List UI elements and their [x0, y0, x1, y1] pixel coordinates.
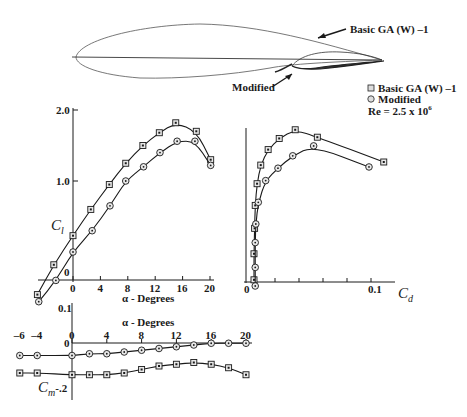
cm-xtick: 4 — [104, 329, 110, 341]
cm-ytick-0: 0 — [64, 337, 70, 349]
cm-xtick: 8 — [139, 329, 145, 341]
cm-ytick-01: 0.1 — [58, 302, 72, 314]
series-line — [254, 132, 384, 280]
legend: Basic GA (W) –1 Modified Re = 2.5 x 106 — [368, 82, 457, 117]
cl-ytick-2: 2.0 — [56, 104, 70, 116]
cm-xlabel: α - Degrees — [122, 316, 175, 328]
airfoil-modified-label: Modified — [232, 81, 275, 93]
cl-xlabel: α - Degrees — [122, 292, 175, 304]
cm-xtick: –4 — [30, 329, 43, 341]
cl-xtick: 4 — [97, 282, 103, 294]
circle-marker-icon — [368, 96, 374, 102]
cm-xtick: 16 — [205, 329, 217, 341]
airfoil-basic-label: Basic GA (W) –1 — [350, 23, 429, 36]
cm-xtick: –6 — [13, 329, 25, 341]
cd-xlabel: Cd — [398, 285, 414, 304]
figure-canvas: Basic GA (W) –1 Modified Basic GA (W) –1… — [0, 0, 467, 417]
cl-ytick-1: 1.0 — [56, 175, 70, 187]
legend-reynolds: Re = 2.5 x 106 — [368, 104, 432, 117]
legend-modified: Modified — [378, 93, 421, 105]
cm-xtick: 20 — [240, 329, 252, 341]
airfoil-diagram: Basic GA (W) –1 Modified — [72, 23, 429, 93]
figure: Basic GA (W) –1 Modified Basic GA (W) –1… — [0, 0, 467, 417]
cm-xtick: 12 — [170, 329, 182, 341]
cd-xtick-01: 0.1 — [368, 283, 382, 295]
cl-xtick: 0 — [70, 282, 76, 294]
cl-xtick: 20 — [204, 282, 216, 294]
cl-xtick: 16 — [177, 282, 189, 294]
cd-xtick-0: 0 — [244, 283, 250, 295]
cl-ylabel: Cl — [51, 217, 64, 236]
series-line — [255, 149, 369, 286]
cl-ytick-0: 0 — [64, 266, 70, 278]
cm-ylabel: Cm-.2 — [38, 379, 68, 398]
square-marker-icon — [368, 85, 374, 91]
cl-chart: 048121620 2.0 1.0 0 Cl α - Degrees — [38, 104, 216, 304]
cd-chart: 0 0.1 Cd — [244, 128, 414, 304]
cm-xtick: 0 — [69, 329, 75, 341]
